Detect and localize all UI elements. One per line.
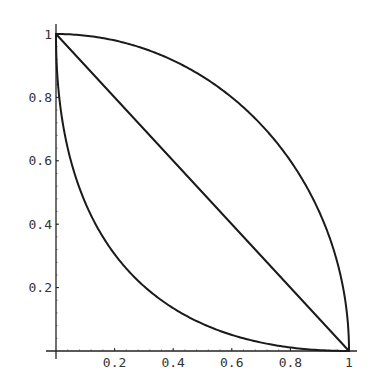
x-tick-label: 0.8: [279, 355, 302, 370]
x-tick-label: 1: [345, 355, 353, 370]
diagonal-line: [56, 34, 349, 351]
y-tick-label: 0.6: [29, 153, 52, 168]
y-tick-label: 0.8: [29, 90, 52, 105]
x-tick-label: 0.2: [103, 355, 126, 370]
y-tick-label: 0.2: [29, 280, 52, 295]
y-tick-label: 1: [44, 27, 52, 42]
x-tick-label: 0.6: [220, 355, 243, 370]
chart: 0.20.40.60.81 0.20.40.60.81: [0, 0, 372, 384]
series: [56, 34, 349, 351]
x-tick-label: 0.4: [161, 355, 185, 370]
y-tick-label: 0.4: [29, 217, 53, 232]
y-ticks: 0.20.40.60.81: [29, 27, 59, 296]
